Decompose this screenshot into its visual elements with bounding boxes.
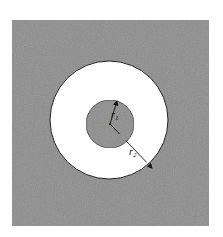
r1-label-sub: 1 <box>115 114 119 122</box>
r2-label-sub: 2 <box>133 151 137 159</box>
annulus-diagram: r1 r2 <box>0 0 223 237</box>
